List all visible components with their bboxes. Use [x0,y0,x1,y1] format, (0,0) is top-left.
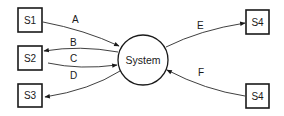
flow-c: C [48,53,117,67]
flow-b-label: B [70,37,77,48]
flow-a: A [43,14,119,46]
entity-s3-label: S3 [24,90,37,101]
flow-e: E [166,20,245,47]
entity-s3: S3 [18,84,42,107]
flow-f-label: F [198,67,204,78]
entity-s4-bottom-label: S4 [251,91,264,102]
flow-d: D [45,70,120,97]
flow-a-label: A [72,14,79,25]
entity-s2-label: S2 [24,53,37,64]
system-process: System [118,35,168,85]
flow-e-label: E [197,20,204,31]
context-diagram: S1 S2 S3 S4 S4 System A B C D E [0,0,284,116]
entity-s1-label: S1 [24,15,37,26]
entity-s4-top-label: S4 [251,17,264,28]
system-label: System [125,54,160,66]
entity-s4-bottom: S4 [246,84,269,108]
entity-s4-top: S4 [246,10,269,34]
entity-s2: S2 [18,46,42,70]
flow-b: B [44,37,118,52]
flow-f: F [167,67,245,96]
entity-s1: S1 [18,8,42,32]
flow-c-label: C [70,53,77,64]
flow-d-label: D [70,70,77,81]
